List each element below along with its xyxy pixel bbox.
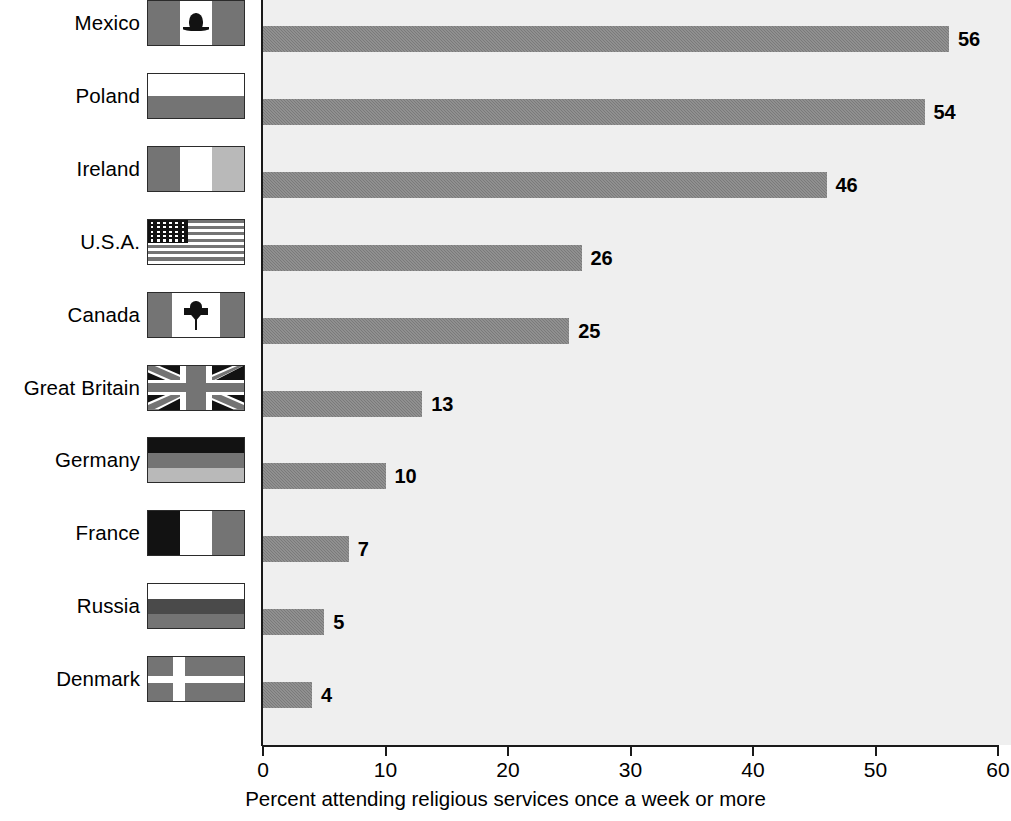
bar — [263, 682, 312, 708]
chart-row: France7 — [0, 510, 1011, 556]
x-axis-tick — [997, 745, 999, 756]
x-axis-tick — [875, 745, 877, 756]
category-label: Germany — [55, 437, 140, 483]
x-axis-tick — [262, 745, 264, 756]
bar-value-label: 4 — [321, 682, 332, 708]
flag-mexico-icon — [147, 0, 245, 46]
category-label: Russia — [77, 583, 140, 629]
category-label: Canada — [68, 292, 140, 338]
bar-value-label: 46 — [836, 172, 858, 198]
flag-russia-icon — [147, 583, 245, 629]
chart-row: Poland54 — [0, 73, 1011, 119]
flag-germany-icon — [147, 437, 245, 483]
flag-ireland-icon — [147, 146, 245, 192]
category-label: France — [76, 510, 140, 556]
chart-row: Denmark4 — [0, 656, 1011, 702]
chart-row: Russia5 — [0, 583, 1011, 629]
flag-france-icon — [147, 510, 245, 556]
category-label: Poland — [76, 73, 140, 119]
bar-value-label: 5 — [333, 609, 344, 635]
bar — [263, 26, 949, 52]
flag-great-britain-icon — [147, 365, 245, 411]
category-label: Great Britain — [24, 365, 140, 411]
x-axis-tick — [630, 745, 632, 756]
x-axis-tick — [752, 745, 754, 756]
bar — [263, 99, 925, 125]
flag-canada-icon — [147, 292, 245, 338]
bar-value-label: 7 — [358, 536, 369, 562]
bar-value-label: 13 — [431, 391, 453, 417]
bar — [263, 536, 349, 562]
bar — [263, 245, 582, 271]
chart-row: Great Britain13 — [0, 365, 1011, 411]
x-axis-tick-label: 0 — [257, 758, 269, 782]
x-axis-tick-label: 20 — [496, 758, 519, 782]
bar — [263, 391, 422, 417]
bar — [263, 318, 569, 344]
chart-row: Mexico56 — [0, 0, 1011, 46]
x-axis-tick-label: 50 — [864, 758, 887, 782]
bar — [263, 609, 324, 635]
bar — [263, 463, 386, 489]
bar-chart: Mexico56Poland54Ireland46U.S.A.26Canada2… — [0, 0, 1011, 821]
x-axis-title: Percent attending religious services onc… — [0, 787, 1011, 811]
bar-value-label: 25 — [578, 318, 600, 344]
bar-value-label: 54 — [934, 99, 956, 125]
bar-value-label: 10 — [395, 463, 417, 489]
bar-value-label: 56 — [958, 26, 980, 52]
x-axis-tick-label: 30 — [619, 758, 642, 782]
category-label: Ireland — [77, 146, 140, 192]
chart-row: Germany10 — [0, 437, 1011, 483]
chart-row: Canada25 — [0, 292, 1011, 338]
category-label: Mexico — [74, 0, 140, 46]
chart-row: U.S.A.26 — [0, 219, 1011, 265]
x-axis-tick — [385, 745, 387, 756]
x-axis-tick-label: 40 — [741, 758, 764, 782]
flag-usa-icon — [147, 219, 245, 265]
x-axis-tick-label: 60 — [986, 758, 1009, 782]
chart-row: Ireland46 — [0, 146, 1011, 192]
category-label: Denmark — [56, 656, 140, 702]
bar — [263, 172, 827, 198]
x-axis-tick-label: 10 — [374, 758, 397, 782]
x-axis-tick — [507, 745, 509, 756]
flag-denmark-icon — [147, 656, 245, 702]
flag-poland-icon — [147, 73, 245, 119]
category-label: U.S.A. — [80, 219, 140, 265]
bar-value-label: 26 — [591, 245, 613, 271]
